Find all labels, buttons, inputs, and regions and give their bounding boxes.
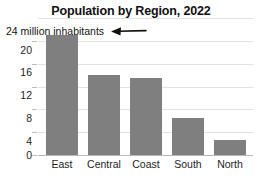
y-tick-label-4: 4 — [26, 136, 32, 147]
y-tick-mark-8 — [32, 109, 37, 110]
bar-north[interactable] — [214, 140, 246, 154]
plot-area — [38, 18, 253, 155]
x-tick-label-south: South — [164, 158, 212, 170]
x-tick-label-east: East — [38, 158, 86, 170]
x-tick-label-coast: Coast — [122, 158, 170, 170]
y-tick-mark-4 — [32, 132, 37, 133]
bar-chart-figure: Population by Region, 2022 20 16 12 8 4 … — [0, 0, 262, 185]
y-tick-label-20: 20 — [20, 45, 32, 56]
y-tick-mark-16 — [32, 64, 37, 65]
y-tick-mark-20 — [32, 41, 37, 42]
chart-title: Population by Region, 2022 — [0, 4, 262, 18]
axis-baseline — [38, 155, 253, 156]
y-tick-mark-0 — [32, 155, 37, 156]
bar-central[interactable] — [88, 75, 120, 155]
annotation-label: 24 million inhabitants — [6, 25, 104, 37]
y-tick-mark-12 — [32, 87, 37, 88]
bar-south[interactable] — [172, 118, 204, 155]
x-tick-label-north: North — [206, 158, 254, 170]
x-axis: East Central Coast South North — [38, 158, 253, 178]
y-tick-label-8: 8 — [26, 113, 32, 124]
gridline-24 — [38, 18, 253, 19]
y-tick-label-12: 12 — [20, 90, 32, 101]
left-arrow-icon — [108, 25, 148, 38]
x-tick-label-central: Central — [80, 158, 128, 170]
bar-coast[interactable] — [130, 78, 162, 155]
y-tick-label-16: 16 — [20, 67, 32, 78]
bar-east[interactable] — [46, 35, 78, 154]
annotation-tick-value: 24 — [6, 25, 18, 37]
annotation-text: million inhabitants — [21, 25, 104, 37]
